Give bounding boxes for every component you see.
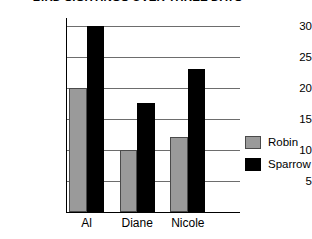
x-axis-tick-label: Diane (121, 216, 152, 230)
y-axis-tick-label: 25 (254, 51, 312, 63)
bar-nicole-sparrow (188, 69, 206, 211)
legend-swatch-sparrow (245, 158, 261, 171)
chart-legend: RobinSparrow (245, 131, 311, 175)
legend-label: Robin (268, 136, 298, 148)
bar-al-sparrow (87, 26, 105, 212)
bar-diane-robin (120, 150, 138, 212)
bar-chart: BIRD SIGHTINGS OVER THREE DAYS 510152025… (0, 0, 312, 239)
plot-area (67, 18, 219, 212)
y-axis-tick-label: 30 (254, 20, 312, 32)
x-axis-tick-label: Nicole (171, 216, 204, 230)
legend-item: Sparrow (245, 153, 311, 175)
y-axis-tick-label: 5 (254, 175, 312, 187)
y-axis-tick-label: 15 (254, 113, 312, 125)
x-axis-line (66, 212, 240, 213)
legend-swatch-robin (245, 136, 261, 149)
legend-item: Robin (245, 131, 311, 153)
y-axis-tick-label: 20 (254, 82, 312, 94)
bar-diane-sparrow (137, 103, 155, 211)
chart-title: BIRD SIGHTINGS OVER THREE DAYS (0, 0, 275, 3)
legend-label: Sparrow (268, 158, 311, 170)
x-axis-tick-label: Al (81, 216, 92, 230)
bar-al-robin (69, 88, 87, 212)
bar-nicole-robin (170, 137, 188, 211)
